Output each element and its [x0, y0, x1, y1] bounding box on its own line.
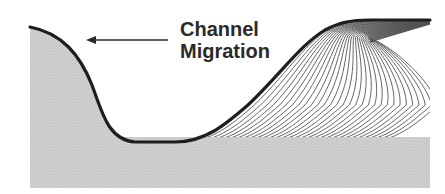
accretion-surface-line — [295, 23, 430, 142]
arrow-left-icon — [86, 36, 96, 44]
migration-arrow — [86, 36, 168, 44]
channel-migration-diagram: Channel Migration — [0, 0, 445, 194]
basal-deposit — [30, 137, 430, 188]
label-line-2: Migration — [180, 40, 270, 62]
accretion-surface-line — [346, 24, 430, 142]
label-line-1: Channel — [180, 18, 259, 40]
